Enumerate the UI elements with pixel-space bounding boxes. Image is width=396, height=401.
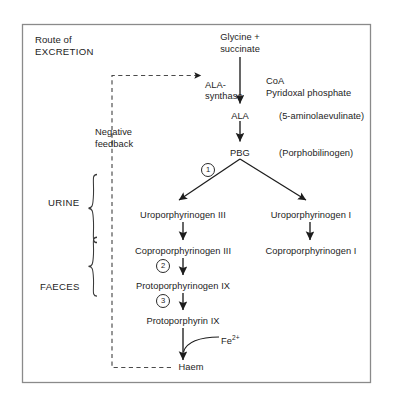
cofactor-coa-label: CoA [266, 76, 284, 87]
metabolite-uroporphyrinogen-i: Uroporphyrinogen I [271, 210, 352, 221]
faeces-brace [89, 237, 98, 296]
feedback-label-line2: feedback [95, 139, 133, 150]
metabolite-pbg-fullname: (Porphobilinogen) [279, 148, 353, 159]
enzyme-ala-synthase-line2: synthase [205, 91, 243, 102]
urine-brace [89, 174, 98, 242]
step-marker-1: 1 [201, 163, 215, 177]
iron-cofactor-label: Fe2+ [221, 332, 240, 347]
metabolite-protoporphyrinogen-ix: Protoporphyrinogen IX [136, 281, 230, 292]
metabolite-protoporphyrin-ix: Protoporphyrin IX [146, 316, 219, 327]
feedback-label-line1: Negative [95, 127, 132, 138]
metabolite-coproporphyrinogen-iii: Coproporphyrinogen III [135, 246, 231, 257]
metabolite-ala-fullname: (5-aminolaevulinate) [279, 111, 364, 122]
heme-biosynthesis-diagram: Route of EXCRETION Glycine + succinate A… [0, 0, 396, 401]
arrow-pbg-to-uro-i [240, 159, 306, 200]
metabolite-haem: Haem [179, 362, 204, 373]
metabolite-ala: ALA [231, 111, 249, 122]
iron-charge: 2+ [232, 334, 240, 341]
step-marker-2: 2 [156, 259, 170, 273]
metabolite-pbg: PBG [230, 148, 250, 159]
curve-iron-into-haem [184, 337, 220, 352]
substrate-label-line2: succinate [220, 44, 260, 55]
cofactor-pyridoxal-phosphate-label: Pyridoxal phosphate [266, 88, 351, 99]
enzyme-ala-synthase-line1: ALA- [205, 80, 226, 91]
excretion-route-faeces: FAECES [40, 281, 80, 292]
step-marker-3: 3 [156, 294, 170, 308]
figure-title-line2: EXCRETION [35, 46, 94, 57]
excretion-route-urine: URINE [48, 197, 79, 208]
substrate-label-line1: Glycine + [220, 32, 259, 43]
figure-title-line1: Route of [35, 34, 72, 45]
iron-symbol: Fe [221, 336, 232, 346]
metabolite-coproporphyrinogen-i: Coproporphyrinogen I [266, 246, 357, 257]
metabolite-uroporphyrinogen-iii: Uroporphyrinogen III [140, 210, 226, 221]
